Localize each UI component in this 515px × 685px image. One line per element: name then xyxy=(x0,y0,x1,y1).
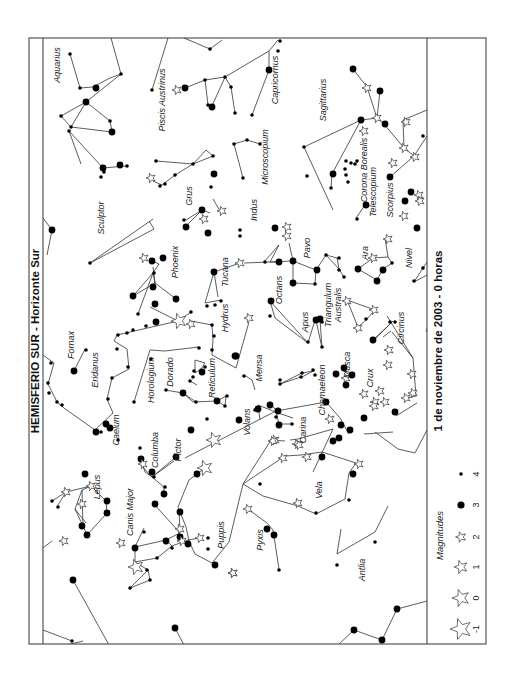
constellation-line xyxy=(61,116,71,127)
constellation-lines xyxy=(43,38,430,651)
star-dot-icon xyxy=(126,365,130,369)
constellation-line xyxy=(112,369,129,378)
star-dot-icon xyxy=(49,227,56,234)
star-dot-icon xyxy=(344,173,348,177)
constellation-line xyxy=(175,164,193,175)
star-dot-icon xyxy=(70,577,77,584)
star-dot-icon xyxy=(163,538,170,545)
star-dot-icon xyxy=(138,446,142,450)
constellation-line xyxy=(414,136,427,156)
star-dot-icon xyxy=(191,162,195,166)
star-dot-icon xyxy=(459,472,463,476)
star-dot-icon xyxy=(212,334,216,338)
star-icon xyxy=(61,487,70,497)
constellation-line xyxy=(243,456,285,484)
star-dot-icon xyxy=(278,382,282,386)
constellation-line xyxy=(375,506,388,532)
constellation-label: Scorpius xyxy=(385,182,395,218)
constellation-line xyxy=(383,331,391,337)
star-dot-icon xyxy=(67,129,71,133)
star-dot-icon xyxy=(82,471,89,478)
constellation-label: Pictor xyxy=(173,437,183,461)
constellation-label: Lepus xyxy=(92,474,102,499)
star-dot-icon xyxy=(170,546,174,550)
star-dot-icon xyxy=(206,536,210,540)
star-dot-icon xyxy=(205,230,212,237)
star-icon xyxy=(375,386,384,396)
star-dot-icon xyxy=(276,49,280,53)
star-dot-icon xyxy=(152,475,156,479)
constellation-line xyxy=(43,541,52,548)
star-dot-icon xyxy=(225,394,229,398)
star-dot-icon xyxy=(238,228,242,232)
star-dot-icon xyxy=(79,523,86,530)
constellation-line xyxy=(195,554,212,563)
constellation-line xyxy=(155,283,176,299)
constellation-line xyxy=(390,156,414,177)
constellation-line xyxy=(71,127,112,132)
star-icon xyxy=(139,253,148,263)
star-dot-icon xyxy=(347,498,351,502)
star-icon xyxy=(454,560,467,573)
star-dot-icon xyxy=(150,88,154,92)
star-dot-icon xyxy=(233,353,240,360)
star-icon xyxy=(282,222,291,232)
constellation-line xyxy=(212,339,213,355)
star-dot-icon xyxy=(210,348,214,352)
star-dot-icon xyxy=(349,161,353,165)
star-icon xyxy=(362,83,371,93)
constellation-label: Sagittarius xyxy=(318,78,328,121)
star-icon xyxy=(243,504,252,514)
constellation-line xyxy=(43,630,72,641)
star-dot-icon xyxy=(116,333,120,337)
star-dot-icon xyxy=(68,52,72,56)
star-dot-icon xyxy=(149,258,156,265)
star-dot-icon xyxy=(302,145,306,149)
star-dot-icon xyxy=(125,164,129,168)
constellation-line xyxy=(212,77,225,106)
constellation-line xyxy=(185,411,276,458)
star-dot-icon xyxy=(84,348,88,352)
constellation-line xyxy=(48,363,54,384)
star-icon xyxy=(278,453,287,463)
star-dot-icon xyxy=(203,78,207,82)
constellation-line xyxy=(87,513,107,535)
star-dot-icon xyxy=(150,284,157,291)
star-dot-icon xyxy=(290,258,297,265)
star-dot-icon xyxy=(211,171,218,178)
star-dot-icon xyxy=(268,314,272,318)
star-dot-icon xyxy=(414,225,421,232)
star-dot-icon xyxy=(153,319,160,326)
star-dot-icon xyxy=(188,427,195,434)
star-dot-icon xyxy=(197,346,201,350)
star-dot-icon xyxy=(276,422,283,429)
star-dot-icon xyxy=(177,509,184,516)
star-dot-icon xyxy=(299,375,303,379)
constellation-line xyxy=(130,570,148,588)
constellation-line xyxy=(304,120,361,147)
star-dot-icon xyxy=(71,368,78,375)
constellation-label: Piscis Austrinus xyxy=(157,68,167,132)
star-icon xyxy=(128,559,142,574)
constellation-label: Pyxis xyxy=(255,529,265,551)
star-icon xyxy=(206,432,220,447)
star-dot-icon xyxy=(306,340,310,344)
constellation-line xyxy=(213,199,220,211)
constellation-label: Pavo xyxy=(302,238,312,259)
constellation-line xyxy=(403,110,427,120)
star-dot-icon xyxy=(277,568,281,572)
star-dot-icon xyxy=(329,186,333,190)
constellation-line xyxy=(205,77,225,80)
star-dot-icon xyxy=(335,563,339,567)
constellation-line xyxy=(396,403,417,416)
star-dot-icon xyxy=(142,530,146,534)
star-dot-icon xyxy=(337,268,341,272)
constellation-line xyxy=(225,51,269,77)
constellation-line xyxy=(231,87,235,113)
constellation-line xyxy=(135,558,157,562)
star-dot-icon xyxy=(421,134,425,138)
star-icon xyxy=(399,211,408,221)
star-icon xyxy=(452,589,468,606)
constellation-line xyxy=(107,399,113,413)
star-dot-icon xyxy=(338,422,345,429)
